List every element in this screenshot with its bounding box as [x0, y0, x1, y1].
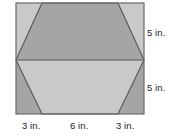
dimension-label-bottom-left: 3 in.	[22, 121, 40, 131]
dimension-label-bottom-right: 3 in.	[116, 121, 134, 131]
figure-canvas	[0, 0, 175, 136]
dimension-label-right-top: 5 in.	[147, 28, 165, 38]
dimension-label-right-bottom: 5 in.	[147, 83, 165, 93]
geometry-figure: 5 in. 5 in. 3 in. 6 in. 3 in.	[0, 0, 175, 136]
dimension-label-bottom-middle: 6 in.	[70, 121, 88, 131]
